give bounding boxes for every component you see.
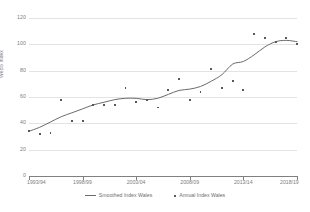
data-point-marker	[232, 80, 234, 82]
y-axis-tick-label: 60	[0, 94, 26, 99]
data-point-marker	[167, 89, 169, 91]
data-point-marker	[71, 120, 73, 122]
chart-legend: Smoothed Index WalesAnnual Index Wales	[0, 193, 310, 198]
x-axis-line	[29, 176, 297, 177]
data-point-marker	[60, 99, 62, 101]
smoothed-line-path	[29, 40, 297, 131]
legend-line-icon	[85, 195, 96, 196]
data-point-marker	[200, 91, 202, 93]
x-axis-tick-label: 2008/09	[180, 180, 199, 185]
x-axis-tick-label: 2003/04	[127, 180, 146, 185]
y-axis-tick-label: 0	[0, 173, 26, 178]
y-axis-tick-label: 20	[0, 147, 26, 152]
legend-dot-icon	[174, 195, 176, 197]
data-point-marker	[28, 130, 30, 132]
data-point-marker	[221, 87, 223, 89]
data-point-marker	[210, 68, 212, 70]
legend-item[interactable]: Annual Index Wales	[174, 193, 225, 198]
x-axis-tick-label: 1993/94	[27, 180, 46, 185]
data-point-marker	[253, 33, 255, 35]
x-axis-tick-label: 1998/99	[73, 180, 92, 185]
data-point-marker	[135, 101, 137, 103]
smoothed-index-line	[29, 18, 297, 176]
data-point-marker	[178, 78, 180, 80]
data-point-marker	[82, 120, 84, 122]
plot-area	[29, 18, 297, 176]
data-point-marker	[275, 41, 277, 43]
data-point-marker	[242, 89, 244, 91]
data-point-marker	[39, 133, 41, 135]
data-point-marker	[125, 87, 127, 89]
data-point-marker	[285, 37, 287, 39]
data-point-marker	[103, 104, 105, 106]
y-axis-tick-label: 80	[0, 68, 26, 73]
legend-label: Smoothed Index Wales	[99, 193, 152, 198]
y-axis-tick-label: 120	[0, 15, 26, 20]
data-point-marker	[92, 104, 94, 106]
data-point-marker	[264, 37, 266, 39]
data-point-marker	[296, 43, 298, 45]
data-point-marker	[114, 104, 116, 106]
data-point-marker	[157, 107, 159, 109]
data-point-marker	[189, 99, 191, 101]
data-point-marker	[50, 132, 52, 134]
y-axis-title: WeBS Index	[0, 50, 4, 78]
chart-container: WeBS Index 020406080100120 1993/941998/9…	[0, 0, 310, 212]
x-axis-tick-label: 2018/19	[280, 180, 299, 185]
data-point-marker	[146, 99, 148, 101]
legend-item[interactable]: Smoothed Index Wales	[85, 193, 152, 198]
x-axis-tick-label: 2013/14	[234, 180, 253, 185]
legend-label: Annual Index Wales	[179, 193, 225, 198]
y-axis-tick-label: 100	[0, 41, 26, 46]
y-axis-tick-label: 40	[0, 120, 26, 125]
